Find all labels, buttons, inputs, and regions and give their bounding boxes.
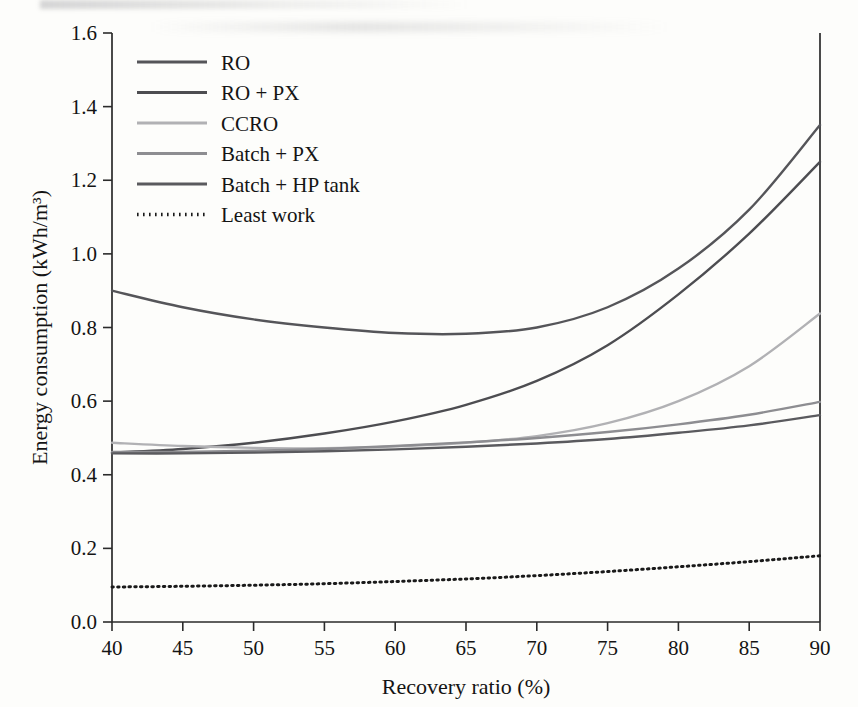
- x-axis-title: Recovery ratio (%): [382, 674, 551, 699]
- legend-label-batch-px: Batch + PX: [221, 142, 319, 166]
- y-tick-label-0.6: 0.6: [71, 389, 97, 413]
- y-axis-title: Energy consumption (kWh/m³): [27, 190, 52, 465]
- axis-frame: [112, 33, 820, 622]
- y-tick-label-0.8: 0.8: [71, 316, 97, 340]
- x-axis-tick-group: 4045505560657075808590: [102, 622, 831, 660]
- y-tick-label-1.4: 1.4: [71, 95, 98, 119]
- x-tick-label-40: 40: [102, 636, 123, 660]
- y-tick-label-1.0: 1.0: [71, 242, 97, 266]
- y-tick-label-1.6: 1.6: [71, 21, 97, 45]
- x-tick-label-85: 85: [739, 636, 760, 660]
- x-tick-label-45: 45: [172, 636, 193, 660]
- legend-label-least-work: Least work: [221, 203, 315, 227]
- legend-label-ro-px: RO + PX: [221, 81, 299, 105]
- y-tick-label-0.2: 0.2: [71, 536, 97, 560]
- x-tick-label-80: 80: [668, 636, 689, 660]
- x-tick-label-55: 55: [314, 636, 335, 660]
- legend-label-ro: RO: [221, 51, 250, 75]
- y-tick-label-0.4: 0.4: [71, 463, 98, 487]
- y-tick-label-0.0: 0.0: [71, 610, 97, 634]
- y-tick-label-1.2: 1.2: [71, 168, 97, 192]
- legend-label-batch-hp-tank: Batch + HP tank: [221, 173, 360, 197]
- x-tick-label-70: 70: [526, 636, 547, 660]
- chart-canvas: 0.00.20.40.60.81.01.21.41.6 404550556065…: [0, 0, 858, 707]
- series-line-ro-px: [112, 162, 820, 453]
- x-tick-label-50: 50: [243, 636, 264, 660]
- x-tick-label-60: 60: [385, 636, 406, 660]
- series-line-batch-px: [112, 402, 820, 452]
- chart-legend: RORO + PXCCROBatch + PXBatch + HP tankLe…: [137, 51, 360, 228]
- x-tick-label-75: 75: [597, 636, 618, 660]
- series-line-least-work: [112, 556, 820, 587]
- y-axis-tick-group: 0.00.20.40.60.81.01.21.41.6: [71, 21, 112, 634]
- x-tick-label-90: 90: [810, 636, 831, 660]
- x-tick-label-65: 65: [456, 636, 477, 660]
- series-line-ro: [112, 125, 820, 334]
- legend-label-ccro: CCRO: [221, 112, 278, 136]
- series-group: [112, 125, 820, 587]
- energy-consumption-chart-figure: 0.00.20.40.60.81.01.21.41.6 404550556065…: [0, 0, 858, 707]
